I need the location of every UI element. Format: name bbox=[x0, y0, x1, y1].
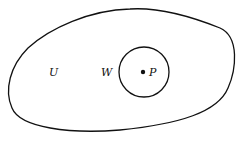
outer-region-boundary bbox=[9, 9, 235, 131]
label-u: U bbox=[49, 66, 59, 79]
label-p: P bbox=[148, 66, 157, 79]
point-p-dot bbox=[141, 70, 145, 74]
diagram-canvas: U W P bbox=[0, 0, 246, 143]
label-w: W bbox=[101, 66, 114, 79]
